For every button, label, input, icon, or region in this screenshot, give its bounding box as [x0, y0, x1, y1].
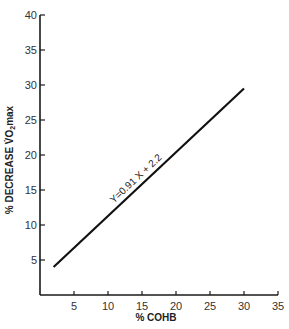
y-tick-label: 30: [25, 79, 37, 91]
x-tick-label: 5: [71, 300, 77, 312]
series-line-regression: [54, 89, 244, 268]
x-tick-label: 20: [170, 300, 182, 312]
x-tick-label: 30: [238, 300, 250, 312]
chart: 5101520253035510152025303540 Y=0.91 X + …: [0, 0, 289, 329]
regression-equation-label: Y=0.91 X + 2.2: [108, 151, 165, 205]
y-tick-label: 15: [25, 184, 37, 196]
y-axis-title: % DECREASE V̇O2max: [4, 105, 16, 214]
series-group: [54, 89, 244, 268]
y-tick-label: 40: [25, 9, 37, 21]
x-tick-label: 35: [272, 300, 284, 312]
y-tick-label: 5: [31, 254, 37, 266]
x-tick-label: 25: [204, 300, 216, 312]
x-tick-label: 15: [136, 300, 148, 312]
y-axis-title-main: % DECREASE V̇O: [4, 130, 15, 215]
y-axis-title-tail: max: [4, 105, 15, 125]
y-tick-label: 35: [25, 44, 37, 56]
y-tick-label: 10: [25, 219, 37, 231]
y-tick-label: 20: [25, 149, 37, 161]
x-tick-label: 10: [102, 300, 114, 312]
y-tick-label: 25: [25, 114, 37, 126]
x-axis-title: % COHB: [135, 312, 176, 323]
